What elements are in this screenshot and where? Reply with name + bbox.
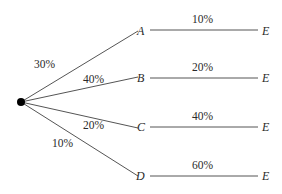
second-prob-b: 20% <box>192 62 213 74</box>
branch-prob-d: 10% <box>52 138 73 150</box>
node-a: A <box>137 25 144 37</box>
node-b: B <box>137 72 144 84</box>
branch-prob-c: 20% <box>83 120 104 132</box>
root-node-dot <box>17 98 25 106</box>
node-e-2: E <box>262 72 269 84</box>
second-prob-a: 10% <box>192 14 213 26</box>
branch-prob-a: 30% <box>34 59 55 71</box>
second-prob-d: 60% <box>192 160 213 172</box>
node-d: D <box>136 170 145 182</box>
node-e-1: E <box>262 25 269 37</box>
node-e-4: E <box>262 170 269 182</box>
node-c: C <box>137 121 145 133</box>
second-prob-c: 40% <box>192 111 213 123</box>
node-e-3: E <box>262 121 269 133</box>
branch-prob-b: 40% <box>83 74 104 86</box>
